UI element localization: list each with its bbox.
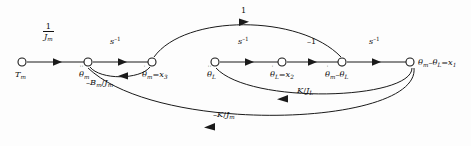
edge-arc-gain-K-JL — [216, 68, 412, 94]
node-label-thetadiff-dot: ˙θm–˙θL — [325, 70, 348, 80]
node-label-thetaL-dot-x2: ˙θL=x2 — [270, 70, 294, 80]
edge-arc-gain-neg-K-Jm — [88, 68, 414, 115]
arrowhead-b5 — [372, 58, 381, 66]
arrowhead-b1 — [53, 58, 62, 66]
arrowhead-b3 — [245, 58, 254, 66]
node-label-thetadiff-x1: θm–θL=x1 — [418, 58, 456, 68]
branch-label-minus-one: –1 — [307, 37, 316, 45]
node-Tm[interactable] — [18, 58, 26, 66]
node-thetam-dot-x3[interactable] — [148, 58, 156, 66]
arrowhead-b9 — [204, 123, 215, 131]
graph-canvas — [0, 0, 471, 146]
arrowhead-b2 — [118, 58, 127, 66]
branch-label-gain-one: 1 — [241, 6, 246, 14]
branch-label-neg-K-over-Jm: –K/Jm — [213, 110, 235, 120]
node-thetaL-dot-x2[interactable] — [278, 58, 286, 66]
arrowhead-b7 — [118, 72, 128, 79]
node-thetam-ddot[interactable] — [84, 58, 92, 66]
node-label-Tm: Tm — [15, 70, 26, 80]
node-label-thetam-dot-x3: ˙θm=x3 — [142, 70, 168, 80]
node-label-thetaL-ddot: ˙˙θL — [207, 70, 216, 80]
arrowhead-b8 — [277, 95, 288, 102]
branch-label-K-over-JL: K/JL — [297, 86, 313, 96]
node-thetadiff-x1[interactable] — [406, 58, 414, 66]
branch-label-s-inverse-1: s–1 — [110, 37, 121, 45]
branch-label-s-inverse-2: s–1 — [238, 37, 249, 45]
signal-flow-graph-diagram: Tm ˙˙θm ˙θm=x3 ˙˙θL ˙θL=x2 ˙θm–˙θL θm–θL… — [0, 0, 471, 146]
branch-label-s-inverse-3: s–1 — [369, 37, 380, 45]
branch-label-1-over-Jm: 1 Jm — [43, 22, 54, 41]
arrowhead-b4 — [308, 58, 317, 66]
branch-label-neg-Bm-over-Jm: –Bm/Jm — [86, 78, 113, 88]
